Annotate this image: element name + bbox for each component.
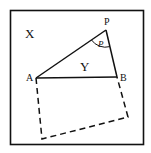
side-PB <box>106 30 117 77</box>
point-label-a: A <box>26 72 34 83</box>
point-label-b: B <box>120 72 127 83</box>
point-label-p: P <box>104 16 110 27</box>
region-label-x: X <box>25 26 35 41</box>
geometry-diagram: X Y P P A B <box>0 0 151 153</box>
side-AP <box>36 30 106 78</box>
angle-label-p: P <box>97 39 104 49</box>
side-AB <box>36 77 117 78</box>
dashed-square <box>36 77 128 139</box>
triangle-label-y: Y <box>80 59 90 74</box>
